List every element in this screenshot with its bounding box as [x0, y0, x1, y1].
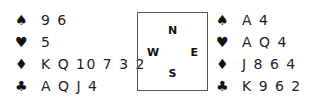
spade-icon: ♠: [216, 13, 228, 27]
compass-north: N: [138, 24, 207, 37]
club-icon: ♣: [15, 79, 27, 93]
west-hearts-cards: 5: [41, 34, 51, 50]
east-clubs-row: ♣ K 9 6 2: [216, 75, 302, 97]
compass-south: S: [138, 67, 207, 80]
spade-icon: ♠: [15, 13, 27, 27]
compass-box: N W E S: [137, 12, 208, 91]
west-spades-cards: 9 6: [41, 12, 68, 28]
east-clubs-cards: K 9 6 2: [242, 78, 302, 94]
west-spades-row: ♠ 9 6: [15, 9, 146, 31]
east-hearts-row: ♥ A Q 4: [216, 31, 302, 53]
west-diamonds-cards: K Q 10 7 3 2: [41, 56, 146, 72]
heart-icon: ♥: [216, 35, 228, 49]
diamond-icon: ♦: [216, 57, 228, 71]
west-clubs-cards: A Q J 4: [41, 78, 98, 94]
east-hand: ♠ A 4 ♥ A Q 4 ♦ J 8 6 4 ♣ K 9 6 2: [216, 9, 302, 97]
east-spades-row: ♠ A 4: [216, 9, 302, 31]
west-clubs-row: ♣ A Q J 4: [15, 75, 146, 97]
club-icon: ♣: [216, 79, 228, 93]
east-diamonds-cards: J 8 6 4: [242, 56, 297, 72]
compass-west: W: [147, 46, 159, 59]
heart-icon: ♥: [15, 35, 27, 49]
west-hand: ♠ 9 6 ♥ 5 ♦ K Q 10 7 3 2 ♣ A Q J 4: [15, 9, 146, 97]
diamond-icon: ♦: [15, 57, 27, 71]
east-spades-cards: A 4: [242, 12, 269, 28]
east-hearts-cards: A Q 4: [242, 34, 288, 50]
compass-east: E: [190, 46, 198, 59]
west-hearts-row: ♥ 5: [15, 31, 146, 53]
west-diamonds-row: ♦ K Q 10 7 3 2: [15, 53, 146, 75]
east-diamonds-row: ♦ J 8 6 4: [216, 53, 302, 75]
